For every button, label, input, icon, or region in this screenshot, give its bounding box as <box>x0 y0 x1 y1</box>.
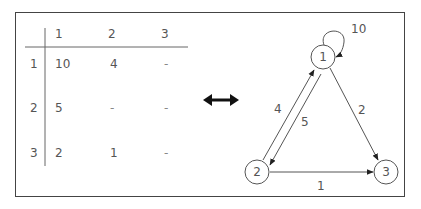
edge-weight: 1 <box>317 179 325 193</box>
edge-weight: 5 <box>301 115 309 129</box>
edge-weight: 4 <box>274 102 282 116</box>
node-label: 3 <box>382 165 390 179</box>
node-label: 2 <box>253 165 261 179</box>
edge-weight: 2 <box>358 103 366 117</box>
edge-weight: 10 <box>351 22 366 36</box>
edge-1-2 <box>270 74 321 165</box>
double-arrow-icon <box>203 94 239 106</box>
edge-1-3 <box>330 68 378 160</box>
diagram-svg: 1 2 3 10 4 5 2 1 <box>0 0 421 209</box>
node-label: 1 <box>319 50 327 64</box>
